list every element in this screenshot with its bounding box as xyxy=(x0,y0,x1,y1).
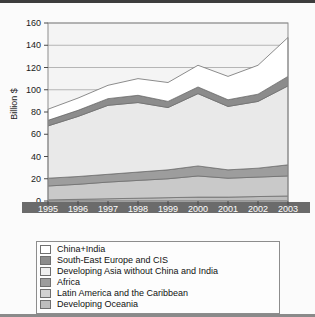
x-tick-label: 1997 xyxy=(98,204,118,213)
legend-item: Africa xyxy=(40,277,276,288)
legend-item: China+India xyxy=(40,244,276,255)
stacked-area-chart: 020406080100120140160 199519961997199819… xyxy=(0,7,315,213)
legend-label: Developing Asia without China and India xyxy=(57,266,218,277)
x-tick-label: 1995 xyxy=(38,204,58,213)
x-tick-label: 2003 xyxy=(278,204,298,213)
y-tick-label: 60 xyxy=(31,129,41,139)
y-tick-label: 100 xyxy=(26,85,41,95)
x-tick-label: 2001 xyxy=(218,204,238,213)
plot-area: 020406080100120140160 199519961997199819… xyxy=(0,7,315,213)
legend-swatch-china-india xyxy=(40,245,51,254)
chart-figure: 020406080100120140160 199519961997199819… xyxy=(0,0,315,317)
legend-swatch-latin-america-caribbean xyxy=(40,289,51,298)
x-tick-label: 1996 xyxy=(68,204,88,213)
y-axis-ticks: 020406080100120140160 xyxy=(26,18,48,206)
y-tick-label: 140 xyxy=(26,40,41,50)
legend-item: Developing Asia without China and India xyxy=(40,266,276,277)
legend-swatch-developing-oceania xyxy=(40,300,51,309)
legend-swatch-developing-asia xyxy=(40,267,51,276)
x-tick-label: 1999 xyxy=(158,204,178,213)
legend-swatch-africa xyxy=(40,278,51,287)
y-tick-label: 20 xyxy=(31,174,41,184)
legend-item: South-East Europe and CIS xyxy=(40,255,276,266)
legend-item: Latin America and the Caribbean xyxy=(40,288,276,299)
y-tick-label: 80 xyxy=(31,107,41,117)
y-tick-label: 40 xyxy=(31,152,41,162)
x-tick-label: 2000 xyxy=(188,204,208,213)
y-tick-label: 160 xyxy=(26,18,41,28)
legend-swatch-south-east-europe-cis xyxy=(40,256,51,265)
legend-label: South-East Europe and CIS xyxy=(57,255,168,266)
legend-label: Developing Oceania xyxy=(57,299,138,310)
chart-legend: China+India South-East Europe and CIS De… xyxy=(36,241,280,314)
y-tick-label: 120 xyxy=(26,63,41,73)
x-tick-label: 2002 xyxy=(248,204,268,213)
legend-label: China+India xyxy=(57,244,105,255)
legend-item: Developing Oceania xyxy=(40,299,276,310)
legend-label: Latin America and the Caribbean xyxy=(57,288,188,299)
x-tick-label: 1998 xyxy=(128,204,148,213)
legend-label: Africa xyxy=(57,277,80,288)
y-axis-title: Billion $ xyxy=(9,74,19,134)
